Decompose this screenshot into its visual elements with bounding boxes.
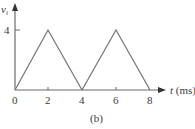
chart-canvas: vi 4 0 2 4 6 8 t (ms) (b) xyxy=(0,0,195,129)
figure-caption: (b) xyxy=(90,112,103,125)
x-axis-arrow-icon xyxy=(158,87,166,93)
waveform-line xyxy=(15,30,150,90)
x-tick-label-4: 4 xyxy=(79,94,85,106)
y-axis-arrow-icon xyxy=(12,3,18,11)
y-axis-label: vi xyxy=(1,3,8,17)
x-axis-label: t (ms) xyxy=(170,84,195,97)
x-tick-label-8: 8 xyxy=(147,94,153,106)
x-tick-label-6: 6 xyxy=(113,94,119,106)
x-tick-label-2: 2 xyxy=(45,94,51,106)
x-tick-label-0: 0 xyxy=(12,94,18,106)
y-tick-label-4: 4 xyxy=(4,24,10,36)
